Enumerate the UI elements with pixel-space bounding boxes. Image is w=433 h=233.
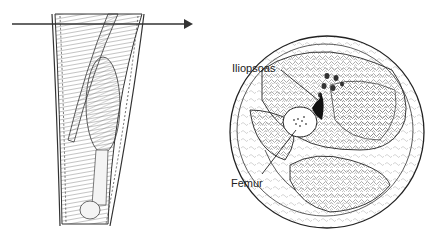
anatomy-figure: [0, 0, 433, 233]
iliopsoas-label: Iliopsoas: [232, 62, 275, 74]
femur-bone: [283, 107, 317, 137]
thigh-longitudinal-view: [52, 14, 144, 226]
femur-label: Femur: [231, 177, 263, 189]
